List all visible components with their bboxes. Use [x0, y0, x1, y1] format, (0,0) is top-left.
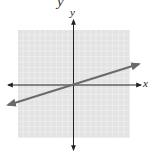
- y-axis-label: y: [70, 6, 75, 18]
- x-axis-label: x: [143, 77, 148, 89]
- coordinate-plane: [0, 0, 153, 153]
